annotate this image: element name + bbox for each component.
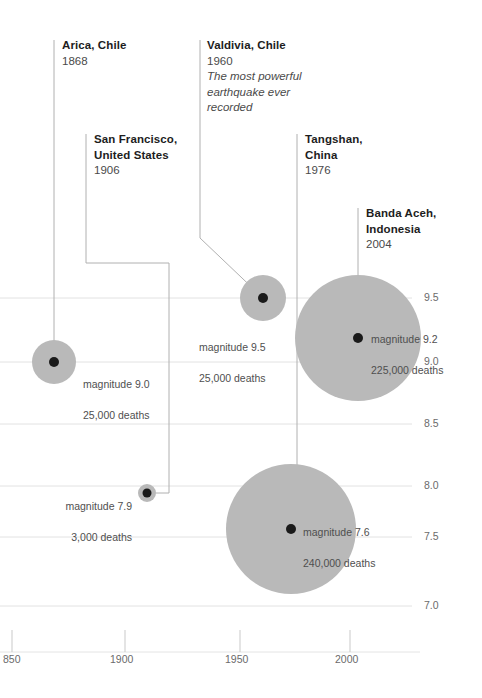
value-label-arica-magnitude: magnitude 9.0 (83, 378, 150, 390)
value-label-tangshan-deaths: 240,000 deaths (303, 557, 375, 569)
value-label-bandaaceh: magnitude 9.2 225,000 deaths (371, 317, 482, 378)
annotation-bandaaceh-title-line2: Indonesia (366, 222, 476, 238)
annotation-tangshan-year: 1976 (305, 163, 405, 179)
bubble-arica[interactable] (32, 340, 76, 384)
value-label-arica-deaths: 25,000 deaths (83, 409, 150, 421)
x-tick-label-1900: 1900 (110, 653, 133, 665)
bubble-sanfrancisco[interactable] (138, 484, 156, 502)
annotation-tangshan-title-line1: Tangshan, (305, 132, 405, 148)
bubble-valdivia[interactable] (240, 275, 286, 321)
value-label-valdivia: magnitude 9.5 25,000 deaths (199, 325, 329, 386)
annotation-bandaaceh-year: 2004 (366, 237, 476, 253)
annotation-arica-title: Arica, Chile (62, 38, 192, 54)
x-tick-label-1950: 1950 (225, 653, 248, 665)
annotation-valdivia: Valdivia, Chile 1960 The most powerful e… (207, 38, 327, 116)
y-tick-label-8-5: 8.5 (424, 417, 439, 429)
value-label-tangshan-magnitude: magnitude 7.6 (303, 526, 370, 538)
annotation-sanfrancisco: San Francisco, United States 1906 (94, 132, 204, 179)
x-tick-label-1850: 850 (3, 653, 21, 665)
annotation-tangshan-title-line2: China (305, 148, 405, 164)
y-tick-label-8-0: 8.0 (424, 479, 439, 491)
y-tick-label-9-5: 9.5 (424, 291, 439, 303)
x-tick-label-2000: 2000 (335, 653, 358, 665)
value-label-tangshan: magnitude 7.6 240,000 deaths (303, 510, 433, 571)
annotation-bandaaceh: Banda Aceh, Indonesia 2004 (366, 206, 476, 253)
annotation-valdivia-title: Valdivia, Chile (207, 38, 327, 54)
annotation-bandaaceh-title-line1: Banda Aceh, (366, 206, 476, 222)
earthquake-bubble-chart: Arica, Chile 1868 Valdivia, Chile 1960 T… (0, 0, 482, 698)
value-label-sanfrancisco-deaths: 3,000 deaths (71, 531, 132, 543)
annotation-sanfrancisco-year: 1906 (94, 163, 204, 179)
y-tick-label-7-0: 7.0 (424, 599, 439, 611)
annotation-arica: Arica, Chile 1868 (62, 38, 192, 69)
annotation-valdivia-year: 1960 (207, 54, 327, 70)
value-label-valdivia-magnitude: magnitude 9.5 (199, 341, 266, 353)
y-tick-label-7-5: 7.5 (424, 530, 439, 542)
annotation-sanfrancisco-title-line1: San Francisco, (94, 132, 204, 148)
value-label-bandaaceh-magnitude: magnitude 9.2 (371, 333, 438, 345)
annotation-arica-year: 1868 (62, 54, 192, 70)
value-label-arica: magnitude 9.0 25,000 deaths (83, 362, 213, 423)
value-label-sanfrancisco-magnitude: magnitude 7.9 (65, 500, 132, 512)
value-label-sanfrancisco: magnitude 7.9 3,000 deaths (20, 484, 132, 545)
annotation-tangshan: Tangshan, China 1976 (305, 132, 405, 179)
y-tick-label-9-0: 9.0 (424, 355, 439, 367)
annotation-valdivia-note: The most powerful earthquake ever record… (207, 69, 327, 116)
annotation-sanfrancisco-title-line2: United States (94, 148, 204, 164)
